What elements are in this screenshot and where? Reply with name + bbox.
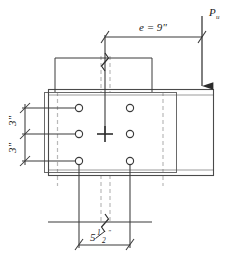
bolt-mid-right: [126, 130, 133, 137]
load-label: P: [208, 6, 216, 18]
engineering-drawing-figure: e = 9" P u: [0, 0, 229, 266]
bolt-bot-left: [75, 157, 82, 164]
hdim-whole-number: 5: [90, 231, 96, 243]
horizontal-dimension-group: [48, 165, 152, 251]
hdim-inch-mark: ": [108, 228, 111, 236]
eccentricity-label: e = 9": [139, 21, 167, 33]
drawing-canvas: e = 9" P u: [0, 0, 229, 266]
bolt-mid-left: [75, 130, 82, 137]
bolt-top-right: [126, 104, 133, 111]
load-label-subscript: u: [216, 13, 220, 21]
hdim-fraction-denominator: 2: [102, 236, 106, 245]
vertical-dimension-label-top: 3": [6, 116, 18, 128]
bolt-bot-right: [126, 157, 133, 164]
vertical-dimension-lines: [20, 103, 76, 166]
vertical-dimension-label-bottom: 3": [6, 143, 18, 155]
bolt-top-left: [75, 104, 82, 111]
horizontal-dimension-label: 5 1 2 ": [90, 228, 111, 245]
hidden-lines-group: [58, 56, 164, 224]
